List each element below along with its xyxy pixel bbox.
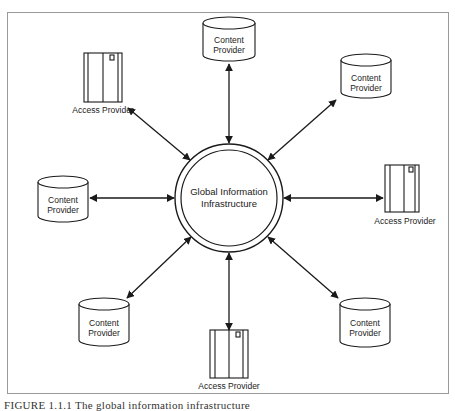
figure-caption: FIGURE 1.1.1 The global information infr…	[4, 399, 250, 411]
content-provider-left-label2: Provider	[47, 205, 79, 215]
content-provider-top-right-label2: Provider	[350, 83, 382, 93]
access-provider-top-left-label: Access Provider	[72, 105, 134, 115]
access-provider-top-left: Access Provider	[72, 53, 134, 115]
server-rack-icon	[385, 165, 419, 212]
access-provider-bottom: Access Provider	[198, 330, 260, 391]
arrow-top-left	[128, 108, 190, 160]
content-provider-bottom-right-label2: Provider	[349, 328, 381, 338]
content-provider-bottom-left-label2: Provider	[88, 328, 120, 338]
arrow-bottom-right	[268, 237, 338, 298]
server-rack-icon	[210, 330, 248, 378]
content-provider-top-right: Content Provider	[341, 54, 391, 98]
server-rack-icon	[84, 53, 122, 102]
arrow-bottom-left	[127, 237, 191, 298]
center-label-line2: Infrastructure	[201, 198, 257, 209]
content-provider-top-right-label1: Content	[351, 73, 381, 83]
content-provider-top: Content Provider	[203, 17, 255, 61]
content-provider-bottom-left: Content Provider	[79, 298, 129, 346]
access-provider-right-label: Access Provider	[374, 216, 436, 226]
content-provider-bottom-right: Content Provider	[340, 298, 390, 347]
center-gii-node: Global Information Infrastructure	[175, 144, 283, 252]
content-provider-left: Content Provider	[38, 176, 88, 222]
access-provider-bottom-label: Access Provider	[198, 381, 260, 391]
content-provider-bottom-left-label1: Content	[89, 318, 119, 328]
content-provider-top-label1: Content	[214, 35, 244, 45]
arrow-top-right	[268, 100, 336, 160]
center-label-line1: Global Information	[190, 186, 268, 197]
content-provider-left-label1: Content	[48, 195, 78, 205]
content-provider-top-label2: Provider	[213, 45, 245, 55]
content-provider-bottom-right-label1: Content	[350, 318, 380, 328]
access-provider-right: Access Provider	[374, 165, 436, 226]
